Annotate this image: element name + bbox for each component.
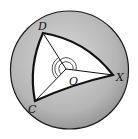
label-d: D <box>37 20 47 33</box>
label-c: C <box>28 103 37 116</box>
sphere-diagram: D X C O <box>0 0 138 139</box>
label-o: O <box>69 75 78 88</box>
label-x: X <box>115 71 125 84</box>
